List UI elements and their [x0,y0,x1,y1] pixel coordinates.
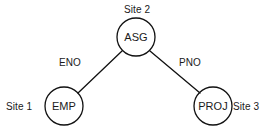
site-label-site-1: Site 1 [6,101,33,112]
site-label-site-2: Site 2 [124,4,151,15]
node-label-emp: EMP [52,100,76,112]
node-label-proj: PROJ [198,100,228,112]
node-label-asg: ASG [124,31,148,43]
edge-line-eno [78,51,122,93]
edge-label-eno: ENO [59,57,81,68]
join-graph-canvas: ENO PNO ASG Site 2 EMP Site 1 PROJ Site … [0,0,273,127]
join-graph-diagram: ENO PNO ASG Site 2 EMP Site 1 PROJ Site … [0,0,273,127]
edge-label-pno: PNO [179,57,201,68]
site-label-site-3: Site 3 [233,101,260,112]
